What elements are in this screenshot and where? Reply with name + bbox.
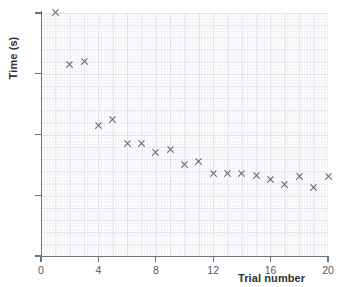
x-tick-mark bbox=[213, 256, 214, 262]
x-tick-label: 8 bbox=[144, 265, 168, 276]
x-tick-mark bbox=[327, 256, 328, 262]
y-axis-title: Time (s) bbox=[7, 23, 19, 93]
data-point bbox=[65, 60, 74, 69]
x-tick-mark bbox=[40, 256, 41, 262]
data-point bbox=[137, 139, 146, 148]
data-point bbox=[51, 9, 60, 18]
data-point bbox=[123, 139, 132, 148]
y-tick-mark bbox=[35, 73, 41, 74]
data-point bbox=[309, 183, 318, 192]
x-axis-line bbox=[40, 256, 329, 257]
data-point bbox=[295, 173, 304, 182]
data-point bbox=[194, 157, 203, 166]
data-point bbox=[252, 171, 261, 180]
data-point bbox=[151, 148, 160, 157]
x-tick-label: 4 bbox=[86, 265, 110, 276]
data-point bbox=[180, 160, 189, 169]
data-point bbox=[166, 145, 175, 154]
x-axis-title: Trial number bbox=[238, 272, 305, 284]
x-tick-label: 12 bbox=[201, 265, 225, 276]
y-axis-line bbox=[41, 11, 42, 257]
x-tick-label: 20 bbox=[316, 265, 340, 276]
y-tick-mark bbox=[35, 134, 41, 135]
data-point bbox=[80, 57, 89, 66]
x-tick-label: 0 bbox=[29, 265, 53, 276]
scatter-chart: 020406080 048121620 Time (s) Trial numbe… bbox=[0, 0, 341, 287]
data-point bbox=[280, 180, 289, 189]
data-point bbox=[209, 169, 218, 178]
y-tick-mark bbox=[35, 12, 41, 13]
data-point bbox=[94, 121, 103, 130]
plot-grid-area bbox=[41, 13, 328, 256]
x-tick-mark bbox=[98, 256, 99, 262]
x-tick-mark bbox=[270, 256, 271, 262]
data-point bbox=[324, 173, 333, 182]
data-point bbox=[223, 169, 232, 178]
data-point bbox=[237, 169, 246, 178]
y-tick-mark bbox=[35, 195, 41, 196]
data-point bbox=[108, 115, 117, 124]
data-point bbox=[266, 176, 275, 185]
x-tick-mark bbox=[155, 256, 156, 262]
